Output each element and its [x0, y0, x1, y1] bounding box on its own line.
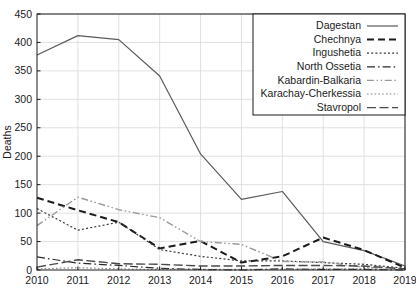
y-tick-label: 400 — [14, 36, 32, 48]
y-tick-label: 150 — [14, 178, 32, 190]
legend-label-ingushetia: Ingushetia — [313, 46, 362, 58]
x-tick-label: 2011 — [67, 274, 90, 286]
line-chart: 0501001502002503003504004502010201120122… — [0, 0, 416, 301]
x-tick-label: 2012 — [107, 274, 131, 286]
legend-label-north-ossetia: North Ossetia — [297, 60, 361, 72]
y-tick-label: 250 — [14, 121, 32, 133]
x-tick-label: 2016 — [271, 274, 295, 286]
x-tick-label: 2015 — [230, 274, 254, 286]
legend-label-kabardin-balkaria: Kabardin-Balkaria — [278, 74, 362, 86]
x-tick-label: 2017 — [312, 274, 336, 286]
legend: DagestanChechnyaIngushetiaNorth OssetiaK… — [253, 14, 405, 115]
x-tick-label: 2018 — [352, 274, 376, 286]
x-tick-label: 2013 — [148, 274, 172, 286]
legend-label-dagestan: Dagestan — [316, 19, 361, 31]
legend-label-stavropol: Stavropol — [317, 101, 361, 113]
y-tick-label: 350 — [14, 64, 32, 76]
x-tick-label: 2010 — [25, 274, 49, 286]
y-tick-label: 450 — [14, 8, 32, 20]
x-tick-label: 2014 — [189, 274, 213, 286]
legend-label-karachay-cherkessia: Karachay-Cherkessia — [261, 87, 362, 99]
y-axis-title: Deaths — [1, 125, 13, 158]
chart-canvas: 0501001502002503003504004502010201120122… — [0, 0, 416, 301]
y-tick-label: 50 — [20, 235, 32, 247]
x-tick-label: 2019 — [393, 274, 416, 286]
y-tick-label: 300 — [14, 93, 32, 105]
legend-label-chechnya: Chechnya — [314, 33, 361, 45]
y-tick-label: 100 — [14, 207, 32, 219]
y-tick-label: 200 — [14, 150, 32, 162]
